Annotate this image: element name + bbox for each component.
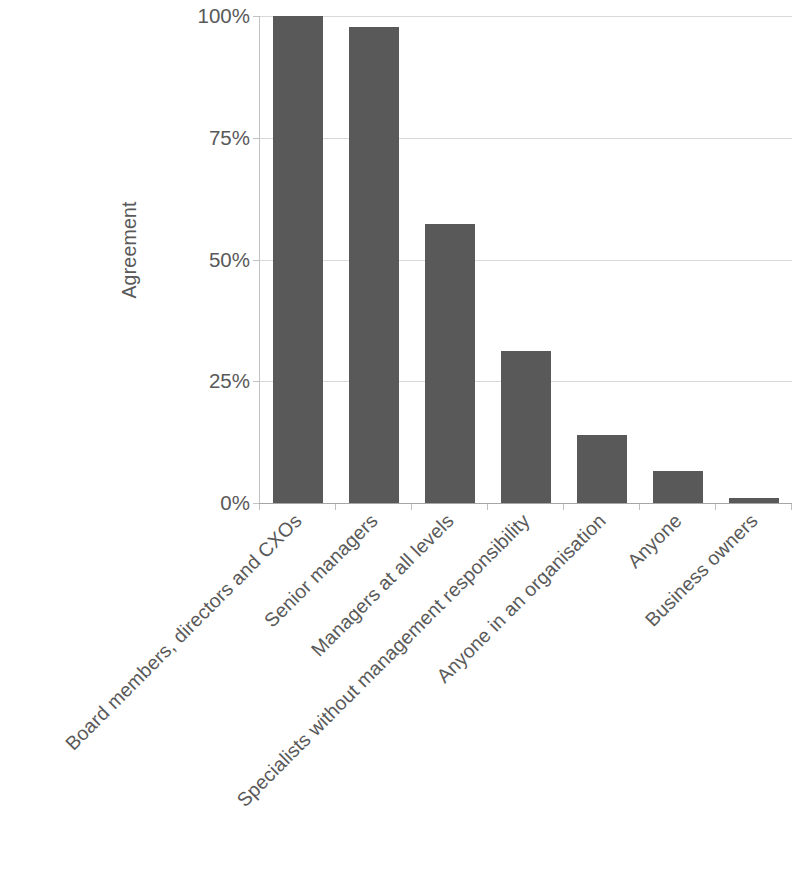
bar-chart: Agreement 100%75%50%25%0% Board members,…: [0, 0, 792, 889]
bar[interactable]: [273, 16, 323, 503]
x-axis-tick-mark: [487, 504, 488, 510]
bar[interactable]: [349, 27, 399, 503]
x-axis-tick-mark: [259, 504, 260, 510]
gridline: [259, 16, 792, 17]
x-axis-tick-mark: [563, 504, 564, 510]
y-axis-tick-label: 75%: [150, 126, 250, 150]
x-axis-tick-mark: [639, 504, 640, 510]
y-axis-line: [259, 16, 260, 504]
x-axis-tick-mark: [335, 504, 336, 510]
y-axis-tick-mark: [253, 138, 259, 139]
y-axis-tick-label: 100%: [150, 4, 250, 28]
y-axis-tick-label: 25%: [150, 369, 250, 393]
gridline: [259, 260, 792, 261]
y-axis-tick-labels: 100%75%50%25%0%: [150, 0, 250, 520]
gridline: [259, 138, 792, 139]
plot-area: [259, 16, 792, 503]
y-axis-title: Agreement: [113, 0, 145, 510]
bar[interactable]: [501, 351, 551, 503]
bar[interactable]: [425, 224, 475, 503]
y-axis-tick-label: 50%: [150, 248, 250, 272]
x-axis-line: [259, 503, 792, 504]
y-axis-tick-label: 0%: [150, 491, 250, 515]
bar[interactable]: [577, 435, 627, 503]
y-axis-tick-mark: [253, 381, 259, 382]
y-axis-tick-mark: [253, 260, 259, 261]
x-axis-tick-mark: [715, 504, 716, 510]
x-axis-tick-mark: [411, 504, 412, 510]
y-axis-tick-mark: [253, 16, 259, 17]
bar[interactable]: [653, 471, 703, 503]
